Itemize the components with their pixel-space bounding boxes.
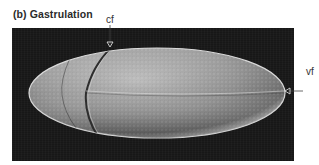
cf-arrow: [107, 25, 113, 47]
embryo-illustration: [0, 0, 319, 165]
vf-arrow: [285, 88, 303, 94]
